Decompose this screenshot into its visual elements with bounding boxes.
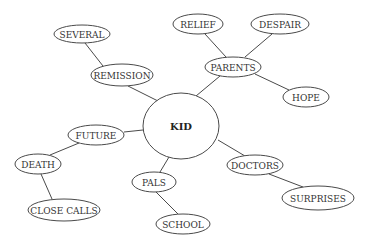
node-death: DEATH: [15, 154, 61, 174]
node-several: SEVERAL: [54, 25, 110, 43]
node-label: PARENTS: [210, 63, 255, 73]
node-kid: KID: [143, 93, 219, 159]
node-label: SURPRISES: [290, 194, 346, 204]
edge-kid-pals: [160, 157, 169, 172]
node-relief: RELIEF: [173, 14, 223, 34]
edge-parents-despair: [245, 34, 272, 57]
mind-map-diagram: KIDSEVERALREMISSIONRELIEFDESPAIRPARENTSH…: [0, 0, 367, 247]
node-future: FUTURE: [68, 125, 124, 145]
edge-death-close-calls: [41, 174, 52, 199]
node-label: KID: [170, 121, 192, 132]
node-pals: PALS: [132, 172, 176, 192]
node-label: FUTURE: [76, 131, 117, 141]
node-label: CLOSE CALLS: [30, 206, 97, 216]
node-surprises: SURPRISES: [282, 186, 354, 210]
edge-kid-doctors: [218, 140, 245, 156]
node-doctors: DOCTORS: [227, 155, 283, 175]
node-label: PALS: [142, 178, 166, 188]
node-label: DESPAIR: [259, 20, 301, 30]
node-label: RELIEF: [180, 20, 216, 30]
node-label: SCHOOL: [162, 220, 204, 230]
edge-future-death: [50, 143, 79, 155]
edge-kid-future: [124, 130, 143, 132]
node-label: REMISSION: [93, 71, 150, 81]
node-close-calls: CLOSE CALLS: [28, 199, 100, 221]
edge-kid-parents: [196, 76, 220, 96]
node-parents: PARENTS: [205, 57, 261, 77]
edge-remission-several: [85, 43, 103, 66]
node-school: SCHOOL: [156, 214, 210, 234]
node-label: HOPE: [292, 93, 320, 103]
edge-parents-hope: [255, 74, 289, 90]
node-remission: REMISSION: [91, 64, 153, 86]
edge-parents-relief: [205, 34, 226, 57]
edge-pals-school: [156, 192, 178, 214]
node-despair: DESPAIR: [251, 14, 309, 34]
node-label: DEATH: [21, 160, 55, 170]
node-label: DOCTORS: [231, 161, 279, 171]
edge-doctors-surprises: [269, 174, 303, 187]
node-hope: HOPE: [283, 87, 329, 107]
node-label: SEVERAL: [59, 30, 104, 40]
edge-kid-remission: [128, 86, 158, 101]
nodes-layer: KIDSEVERALREMISSIONRELIEFDESPAIRPARENTSH…: [15, 14, 354, 234]
